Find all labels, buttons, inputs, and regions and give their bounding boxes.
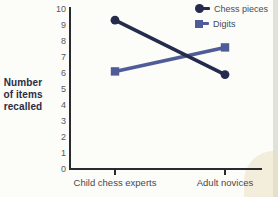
data-point-chess-pieces	[221, 70, 230, 79]
x-category-label: Adult novices	[165, 177, 278, 188]
x-category-label: Child chess experts	[55, 177, 175, 188]
data-point-digits	[111, 67, 119, 75]
y-tick-label: 9	[40, 20, 66, 31]
chart-legend: Chess piecesDigits	[195, 3, 268, 29]
y-tick-label: 4	[40, 100, 66, 111]
legend-line-stub	[202, 7, 210, 10]
y-tick-label: 5	[40, 84, 66, 95]
legend-item-digits: Digits	[195, 18, 268, 29]
legend-line-stub	[201, 22, 209, 25]
memory-recall-line-chart: Number of items recalled 012345678910 Ch…	[0, 0, 278, 197]
legend-label: Chess pieces	[214, 4, 268, 14]
legend-item-chess-pieces: Chess pieces	[195, 3, 268, 14]
data-point-chess-pieces	[111, 16, 120, 25]
axes	[70, 7, 262, 169]
y-tick-label: 2	[40, 132, 66, 143]
y-tick-label: 10	[40, 4, 66, 15]
y-tick-label: 1	[40, 148, 66, 159]
y-tick-label: 3	[40, 116, 66, 127]
y-tick-label: 7	[40, 52, 66, 63]
y-tick-label: 0	[40, 164, 66, 175]
y-tick-label: 8	[40, 36, 66, 47]
y-tick-label: 6	[40, 68, 66, 79]
legend-label: Digits	[213, 19, 236, 29]
data-point-digits	[221, 43, 229, 51]
